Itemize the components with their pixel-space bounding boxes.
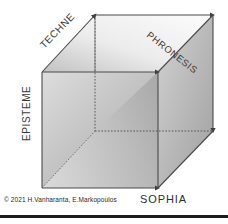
cube-diagram xyxy=(0,0,228,224)
knowledge-cube-figure: Lesson xyxy=(0,0,228,224)
axis-label-sophia: SOPHIA xyxy=(140,194,187,205)
bottom-divider-rule xyxy=(0,215,228,218)
axis-label-episteme: EPISTEME xyxy=(22,86,32,141)
copyright-credit: © 2021 H.Vanharanta, E.Markopoulos xyxy=(4,196,117,203)
